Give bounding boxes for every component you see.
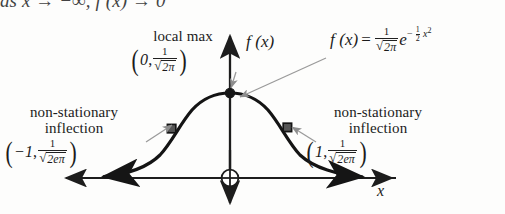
formula-expression: f (x) = 1 2π e − 1 2 x2 — [330, 26, 432, 53]
left-inflection-x: −1 — [14, 144, 33, 160]
sqrt-icon: 2π — [154, 60, 175, 73]
caption-fragment-text: as x → −∞, f (x) → 0 — [0, 0, 300, 11]
formula-exponent-sign: − — [407, 28, 413, 39]
formula-exponent-power: 2 — [428, 25, 432, 34]
right-inflection-coordinate: ( 1 , 1 2eπ ) — [305, 138, 368, 165]
formula-coefficient-numerator: 1 — [382, 26, 392, 38]
left-inflection-radicand: 2eπ — [46, 152, 66, 165]
local-max-fraction: 1 2π — [153, 46, 176, 73]
annotation-local-max: local max ( 0 , 1 2π ) — [130, 28, 236, 73]
sqrt-icon: 2π — [376, 40, 397, 53]
right-inflection-subtitle: inflection — [305, 120, 451, 136]
caption-fragment-clipped: as x → −∞, f (x) → 0 — [0, 0, 300, 11]
paren-open-icon: ( — [131, 49, 138, 71]
paren-close-icon: ) — [179, 49, 186, 71]
paren-close-icon: ) — [359, 141, 366, 163]
local-max-radicand: 2π — [161, 60, 175, 73]
y-axis-label: f (x) — [246, 33, 274, 51]
local-max-coordinate: ( 0 , 1 2π ) — [130, 46, 188, 73]
formula-coefficient: 1 2π — [375, 26, 398, 53]
local-max-x: 0 — [140, 52, 148, 68]
left-inflection-numerator: 1 — [48, 138, 58, 150]
local-max-numerator: 1 — [160, 46, 170, 58]
formula-coefficient-denominator: 2π — [375, 38, 398, 53]
right-inflection-radicand: 2eπ — [336, 152, 356, 165]
formula-coefficient-radicand: 2π — [383, 40, 397, 53]
formula-exponent-fraction: 1 2 — [416, 26, 420, 44]
formula-exponent-numerator: 1 — [416, 26, 420, 34]
annotation-left-inflection: non-stationary inflection ( −1 , 1 2eπ ) — [4, 104, 144, 165]
origin-marker — [222, 170, 239, 187]
normal-curve-figure: as x → −∞, f (x) → 0 local max ( 0 , 1 2… — [0, 0, 505, 214]
formula-base: e — [399, 31, 407, 48]
comma: , — [323, 144, 327, 160]
right-inflection-denominator: 2eπ — [328, 150, 357, 165]
right-inflection-fraction: 1 2eπ — [328, 138, 357, 165]
sqrt-icon: 2eπ — [39, 152, 66, 165]
local-max-denominator: 2π — [153, 58, 176, 73]
right-inflection-point-marker — [283, 123, 291, 131]
paren-close-icon: ) — [69, 141, 76, 163]
annotation-right-inflection: non-stationary inflection ( 1 , 1 2eπ ) — [305, 104, 451, 165]
sqrt-icon: 2eπ — [329, 152, 356, 165]
paren-open-icon: ( — [5, 141, 12, 163]
comma: , — [33, 144, 37, 160]
formula-equals: = — [361, 31, 371, 48]
comma: , — [148, 52, 152, 68]
formula-lhs: f (x) — [330, 31, 358, 48]
left-inflection-denominator: 2eπ — [38, 150, 67, 165]
x-axis-label: x — [377, 182, 384, 199]
paren-open-icon: ( — [306, 141, 313, 163]
local-max-point-marker — [225, 88, 234, 97]
left-inflection-coordinate: ( −1 , 1 2eπ ) — [4, 138, 78, 165]
right-inflection-title: non-stationary — [305, 104, 451, 120]
leader-formula — [240, 58, 326, 97]
formula-exponent-denominator: 2 — [416, 34, 420, 44]
right-inflection-numerator: 1 — [338, 138, 348, 150]
leader-local-max — [231, 72, 236, 88]
right-inflection-x: 1 — [315, 144, 323, 160]
left-inflection-fraction: 1 2eπ — [38, 138, 67, 165]
formula-exponent: − 1 2 x2 — [407, 26, 432, 44]
left-inflection-title: non-stationary — [4, 104, 144, 120]
